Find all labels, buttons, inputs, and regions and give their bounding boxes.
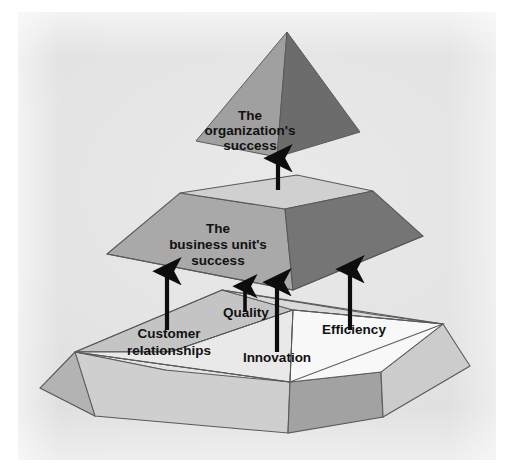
customer-relationships-label-line2: relationships [127,343,211,358]
apex-label-line3: success [223,138,276,153]
middle-label-line1: The [206,221,230,236]
pyramid-illustration: The organization's success The business … [0,0,514,473]
efficiency-label: Efficiency [322,322,386,337]
quality-label: Quality [223,305,269,320]
apex-label-line2: organization's [205,123,296,138]
apex-level [196,32,360,157]
middle-right-face [285,191,423,290]
apex-right-face [277,32,360,157]
innovation-label: Innovation [243,350,311,365]
diagram-canvas: The organization's success The business … [0,0,514,473]
middle-label-line3: success [191,253,244,268]
middle-label-line2: business unit's [169,237,267,252]
middle-level [107,175,423,290]
customer-relationships-label-line1: Customer [137,326,201,341]
apex-label-line1: The [238,108,262,123]
